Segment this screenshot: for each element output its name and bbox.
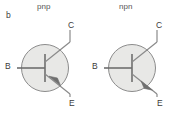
pnp-base-label: B [5, 62, 11, 71]
figure-container: b pnp npn B C E B C E [0, 0, 173, 116]
npn-emitter-label: E [157, 99, 163, 108]
pnp-emitter-label: E [69, 99, 75, 108]
npn-collector-label: C [156, 21, 162, 30]
pnp-caption: pnp [37, 3, 50, 11]
pnp-collector-label: C [68, 21, 74, 30]
npn-caption: npn [119, 3, 132, 11]
transistor-symbols-drawing [0, 0, 173, 116]
npn-base-label: B [92, 62, 98, 71]
pnp-transistor-symbol [17, 30, 70, 97]
figure-part-label: b [6, 11, 11, 20]
npn-transistor-symbol [104, 30, 157, 97]
